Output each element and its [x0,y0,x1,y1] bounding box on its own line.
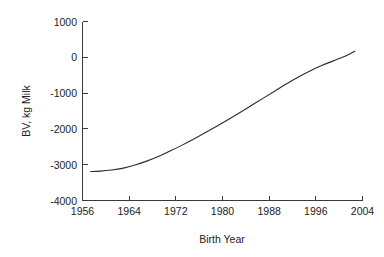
y-tick-label: -2000 [50,123,77,135]
x-tick-label: 1996 [304,205,328,217]
x-tick-label: 1980 [211,205,235,217]
x-tick-label: 1972 [164,205,188,217]
y-axis-title: BV, kg Milk [20,84,32,136]
y-tick-label: -1000 [50,87,77,99]
axis-spines [83,22,363,201]
y-tick-labels: 1000 0 -1000 -2000 -3000 -4000 [50,16,77,207]
line-chart: 1000 0 -1000 -2000 -3000 -4000 1956 1964… [0,0,384,257]
x-tick-label: 1956 [71,205,95,217]
x-tick-labels: 1956 1964 1972 1980 1988 1996 2004 [71,205,375,217]
x-tick-label: 1988 [258,205,282,217]
y-tick-marks [83,22,88,201]
x-axis-title: Birth Year [199,233,245,245]
chart-figure: 1000 0 -1000 -2000 -3000 -4000 1956 1964… [0,0,384,257]
x-tick-marks [83,196,363,201]
data-series-line [91,51,355,171]
y-tick-label: 1000 [54,16,78,28]
y-tick-label: 0 [71,51,77,63]
y-tick-label: -3000 [50,159,77,171]
x-tick-label: 2004 [351,205,375,217]
x-tick-label: 1964 [118,205,142,217]
